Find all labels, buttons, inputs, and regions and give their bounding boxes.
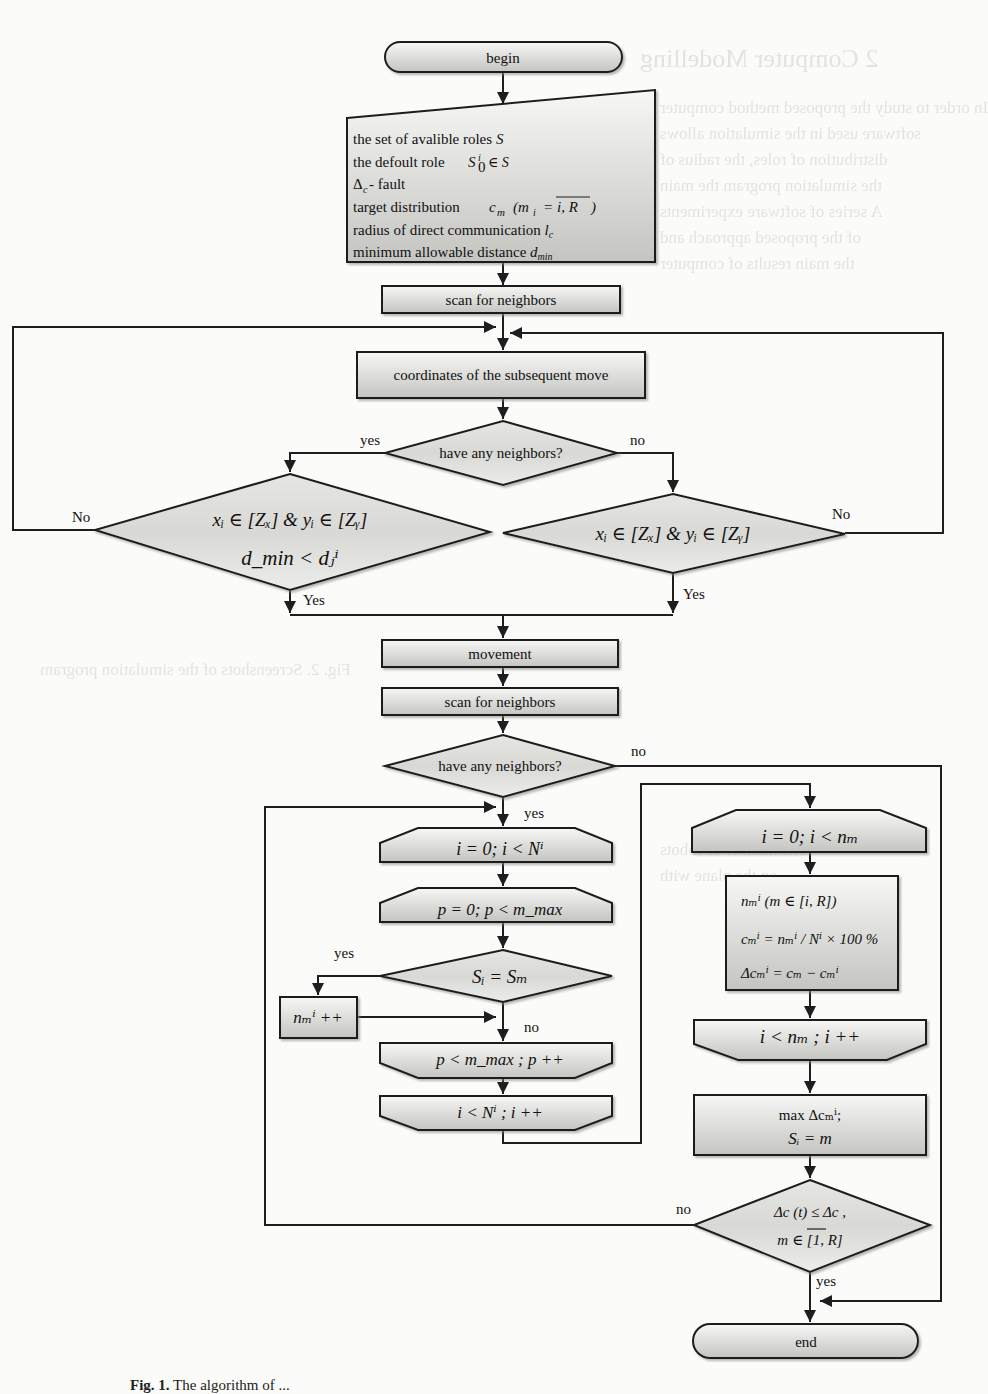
select-role-line2: Sᵢ = m [788,1129,831,1148]
svg-text:cₘⁱ = nₘⁱ / Nⁱ × 100 %: cₘⁱ = nₘⁱ / Nⁱ × 100 % [741,931,878,947]
svg-text:i: i [533,207,536,218]
loop-start-i2-label: i = 0; i < nₘ [762,826,859,847]
svg-text:=: = [543,199,553,215]
svg-text:Δ: Δ [353,176,363,192]
figure-caption-prefix: Fig. 1. [130,1377,170,1393]
decision-position-distance [95,474,490,590]
svg-text:i, R: i, R [557,199,578,215]
decision-neighbors-label-1: have any neighbors? [439,445,563,461]
figure-caption: Fig. 1. The algorithm of ... [130,1377,290,1394]
loop-start-i-label: i = 0; i < Nⁱ [456,839,544,859]
svg-text:m: m [497,206,505,218]
edge-label-no: no [524,1019,539,1035]
movement-label: movement [468,646,532,662]
svg-text:0: 0 [478,159,486,175]
edge-label-no: No [72,509,90,525]
scan-neighbors-label-1: scan for neighbors [446,292,557,308]
svg-text:Δcₘⁱ = cₘ − cₘⁱ: Δcₘⁱ = cₘ − cₘⁱ [740,965,839,981]
decision-neighbors-label-2: have any neighbors? [438,758,562,774]
svg-text:minimum allowable distance dmi: minimum allowable distance dmin [353,244,553,262]
svg-text:- fault: - fault [369,176,406,192]
decision-convergence-line1: Δc (t) ≤ Δc , [773,1204,846,1221]
edge-label-yes: Yes [303,592,325,608]
figure-caption-text: The algorithm of ... [173,1377,290,1393]
svg-text:radius of direct communication: radius of direct communication lc [353,222,554,240]
edge-label-no: No [832,506,850,522]
end-label: end [795,1334,817,1350]
svg-text:nₘⁱ (m ∈ [i, R]): nₘⁱ (m ∈ [i, R]) [741,893,836,910]
svg-text:∈ S: ∈ S [488,155,509,170]
svg-text:c: c [363,184,368,195]
decision-convergence-line2: m ∈ [1, R] [777,1232,842,1248]
svg-text:the set of avalible roles S: the set of avalible roles S [353,131,504,147]
svg-text:target distribution: target distribution [353,199,460,215]
edge-label-yes: yes [524,805,544,821]
loop-end-i2-label: i < nₘ ; i ++ [760,1026,860,1047]
select-role-line1: max Δcₘⁱ; [779,1107,841,1123]
svg-text:d_min < dⱼⁱ: d_min < dⱼⁱ [241,546,338,570]
decision-role-match-label: Sᵢ = Sₘ [472,966,528,987]
increment-label: nₘⁱ ++ [293,1008,343,1027]
svg-text:c: c [489,199,496,215]
loop-end-i-label: i < Nⁱ ; i ++ [457,1103,543,1122]
edge-label-yes: yes [334,945,354,961]
begin-label: begin [486,50,520,66]
svg-text:S: S [468,154,476,170]
edge-label-yes: Yes [683,586,705,602]
edge-label-yes: yes [816,1273,836,1289]
svg-text:): ) [590,199,596,216]
coordinates-label: coordinates of the subsequent move [394,367,609,383]
edge-label-no: no [676,1201,691,1217]
loop-start-p-label: p = 0; p < m_max [437,900,563,919]
decision-convergence [694,1180,930,1272]
svg-text:xᵢ ∈ [Zₓ] & yᵢ ∈ [Zᵧ]: xᵢ ∈ [Zₓ] & yᵢ ∈ [Zᵧ] [212,509,368,530]
decision-position-text: xᵢ ∈ [Zₓ] & yᵢ ∈ [Zᵧ] [595,523,751,544]
svg-text:the defoult role: the defoult role [353,154,445,170]
svg-text:(m: (m [513,199,529,216]
scan-neighbors-label-2: scan for neighbors [445,694,556,710]
edge-label-no: no [630,432,645,448]
edge-label-no: no [631,743,646,759]
loop-end-p-label: p < m_max ; p ++ [435,1050,563,1069]
edge-label-yes: yes [360,432,380,448]
